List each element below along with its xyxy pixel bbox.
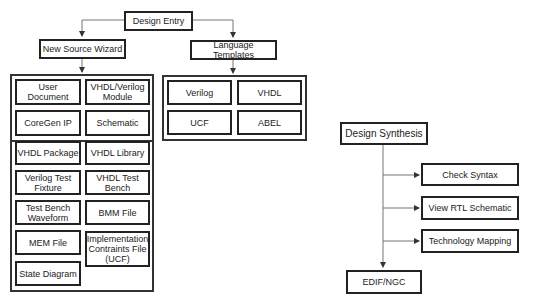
item-verilog-test-fixture: Verilog Test Fixture (15, 170, 81, 195)
item-schematic: Schematic (85, 110, 150, 136)
edif-ngc-box: EDIF/NGC (346, 270, 422, 294)
language-templates-box: Language Templates (190, 40, 277, 60)
item-ucf: UCF (167, 110, 232, 135)
item-mem-file: MEM File (15, 230, 81, 255)
step-view-rtl-schematic: View RTL Schematic (421, 196, 519, 220)
item-coregen-ip: CoreGen IP (15, 110, 81, 136)
step-check-syntax: Check Syntax (421, 163, 519, 186)
item-verilog: Verilog (167, 80, 232, 105)
item-vhdl-verilog-module: VHDL/Verilog Module (85, 79, 150, 105)
item-vhdl-test-bench: VHDL Test Bench (85, 170, 150, 195)
item-test-bench-waveform: Test Bench Waveform (15, 200, 81, 225)
item-user-document: User Document (15, 79, 81, 105)
new-source-wizard-box: New Source Wizard (39, 39, 126, 59)
item-bmm-file: BMM File (85, 200, 150, 225)
item-state-diagram: State Diagram (15, 261, 81, 286)
item-vhdl-package: VHDL Package (15, 141, 81, 165)
item-vhdl: VHDL (237, 80, 302, 105)
step-technology-mapping: Technology Mapping (421, 229, 519, 253)
item-abel: ABEL (237, 110, 302, 135)
design-entry-box: Design Entry (124, 11, 193, 31)
item-ucf-constraints: Implementation Contraints File (UCF) (85, 231, 150, 267)
design-synthesis-box: Design Synthesis (340, 122, 428, 145)
item-vhdl-library: VHDL Library (85, 141, 150, 165)
